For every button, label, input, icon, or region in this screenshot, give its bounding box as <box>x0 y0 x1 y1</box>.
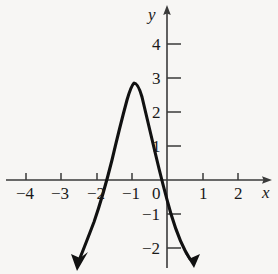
y-tick-label-4: 4 <box>152 36 161 53</box>
x-tick-label-minus-2: −2 <box>87 185 105 202</box>
x-tick-label-minus-1: −1 <box>122 185 140 202</box>
parabola-curve <box>71 83 200 271</box>
x-tick-label-minus-3: −3 <box>51 185 69 202</box>
x-tick-label-zero: 0 <box>152 185 161 202</box>
x-tick-label-2: 2 <box>234 185 243 202</box>
graph-figure: y x −4 −3 −2 −1 0 1 2 4 3 2 1 −1 −2 <box>0 0 278 274</box>
x-axis <box>6 173 272 184</box>
y-tick-label-1: 1 <box>152 138 161 155</box>
y-tick-label-3: 3 <box>152 70 161 87</box>
y-tick-label-2: 2 <box>152 104 161 121</box>
x-axis-ticks <box>26 173 238 180</box>
y-axis <box>163 5 181 268</box>
x-tick-label-minus-4: −4 <box>16 185 34 202</box>
parabola-plot <box>0 0 278 274</box>
x-tick-label-1: 1 <box>199 185 208 202</box>
y-tick-label-minus-1: −1 <box>142 206 160 223</box>
y-axis-label: y <box>148 6 156 23</box>
x-axis-label: x <box>262 184 270 201</box>
y-tick-label-minus-2: −2 <box>142 240 160 257</box>
y-axis-ticks <box>167 44 181 248</box>
